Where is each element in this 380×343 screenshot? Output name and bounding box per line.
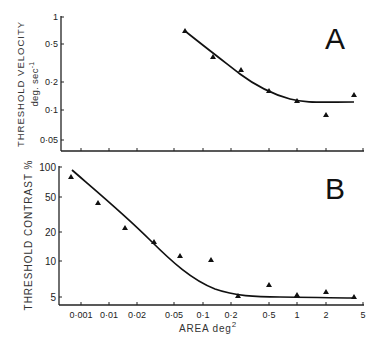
panel-b-y-tick-label: 20 [45,227,57,238]
data-point-triangle [323,289,329,294]
panel-b-fit-curve [72,170,354,298]
panel-a-y-axis-units: deg. sec-1 [28,61,40,106]
panel-a: 1 0·5 0·2 0·1 0·05 THRESHOLD VELOCITY de… [15,12,364,151]
data-point-triangle [177,253,183,258]
x-tick-label: 0·01 [100,310,118,320]
x-tick-label: 0·02 [128,310,146,320]
panel-a-letter: A [325,22,345,55]
data-point-triangle [238,67,244,72]
panel-a-y-tick-label: 1 [53,12,58,22]
data-point-triangle [95,200,101,205]
data-point-triangle [351,92,357,97]
panel-a-y-axis-label: THRESHOLD VELOCITY [15,21,26,147]
panel-b-y-tick-label: 10 [45,256,57,267]
panel-a-y-tick-label: 0·2 [45,77,58,87]
figure: 1 0·5 0·2 0·1 0·05 THRESHOLD VELOCITY de… [0,0,380,343]
x-axis-label: AREA deg2 [179,320,237,334]
panel-b-y-axis-label: THRESHOLD CONTRAST % [23,160,34,311]
panel-a-y-tick-label: 0·1 [45,105,58,115]
data-point-triangle [266,282,272,287]
panel-b-data-points [68,174,357,299]
data-point-triangle [323,112,329,117]
x-tick-label: 5 [360,310,365,320]
data-point-triangle [68,174,74,179]
x-tick-label: 1 [294,310,299,320]
panel-b-y-tick-label: 50 [45,192,57,203]
x-tick-label: 0·05 [165,310,183,320]
panel-b-letter: B [325,172,345,205]
panel-a-y-tick-label: 0·05 [40,135,58,145]
panel-b-y-tick-label: 100 [39,162,56,173]
x-tick-label: 2 [323,310,328,320]
data-point-triangle [122,225,128,230]
data-point-triangle [351,294,357,299]
x-tick-label: 0·1 [196,310,209,320]
panel-b: 100 50 20 10 5 0·001 0·01 0·02 0·05 0·1 … [23,160,366,334]
data-point-triangle [182,28,188,33]
x-tick-label: 0·001 [69,310,92,320]
data-point-triangle [294,292,300,297]
panel-b-y-tick-label: 5 [50,292,56,303]
panel-a-y-tick-label: 0·5 [45,39,58,49]
data-point-triangle [208,257,214,262]
x-tick-label: 0·5 [262,310,275,320]
x-tick-label: 0·2 [224,310,237,320]
